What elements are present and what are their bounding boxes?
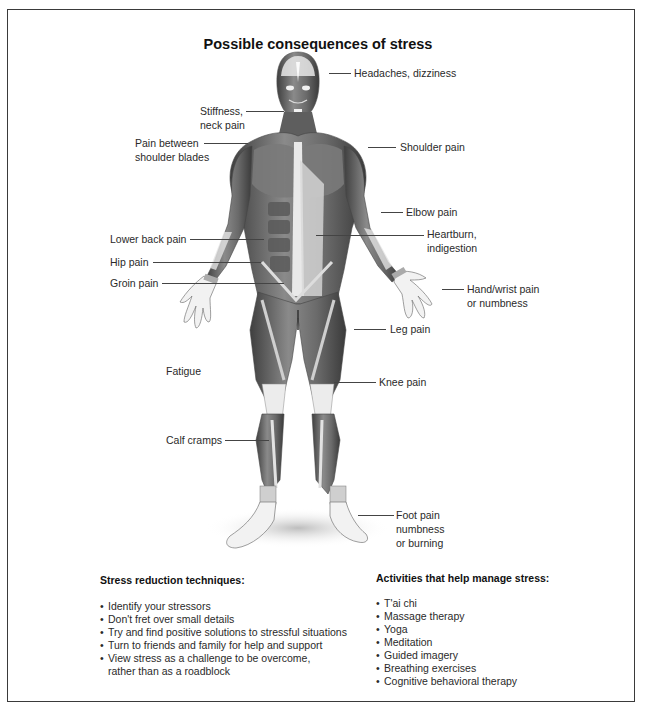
leader-groin bbox=[162, 283, 284, 284]
list-item-text: rather than as a roadblock bbox=[108, 665, 230, 677]
bullet-icon: • bbox=[376, 636, 380, 649]
label-knee: Knee pain bbox=[379, 375, 426, 389]
list-item-text: Meditation bbox=[384, 636, 432, 648]
list-item-text: Don't fret over small details bbox=[108, 613, 234, 625]
bullet-icon: • bbox=[100, 613, 104, 626]
bullet-icon: • bbox=[376, 610, 380, 623]
bullet-icon: • bbox=[376, 662, 380, 675]
bullet-icon: • bbox=[100, 626, 104, 639]
label-hand: Hand/wrist pain or numbness bbox=[467, 282, 539, 310]
list-item-text: Try and find positive solutions to stres… bbox=[108, 626, 347, 638]
leader-hand bbox=[442, 289, 464, 290]
list-item: •Meditation bbox=[376, 636, 517, 649]
list-item: •Try and find positive solutions to stre… bbox=[100, 626, 347, 639]
list-item: •Breathing exercises bbox=[376, 662, 517, 675]
label-shoulder-blades: Pain between shoulder blades bbox=[135, 136, 209, 164]
label-foot: Foot pain numbness or burning bbox=[396, 508, 444, 550]
label-foot-line1: Foot pain bbox=[396, 508, 444, 522]
label-fatigue: Fatigue bbox=[166, 364, 201, 378]
leader-hip bbox=[153, 262, 261, 263]
list-item: •Massage therapy bbox=[376, 610, 517, 623]
label-between-line2: shoulder blades bbox=[135, 150, 209, 164]
stress-reduction-list: •Identify your stressors •Don't fret ove… bbox=[100, 600, 347, 678]
label-foot-line3: or burning bbox=[396, 536, 444, 550]
bullet-icon: • bbox=[376, 649, 380, 662]
list-item-text: Turn to friends and family for help and … bbox=[108, 639, 322, 651]
list-item-text: Guided imagery bbox=[384, 649, 458, 661]
label-stiffness-line1: Stiffness, bbox=[200, 104, 245, 118]
leader-headaches bbox=[329, 73, 351, 74]
list-item-text: Yoga bbox=[384, 623, 408, 635]
bullet-icon: • bbox=[376, 623, 380, 636]
leader-stiffness bbox=[246, 111, 284, 112]
bullet-icon: • bbox=[376, 675, 380, 688]
bullet-icon: • bbox=[100, 639, 104, 652]
label-heartburn-line1: Heartburn, bbox=[427, 227, 477, 241]
activities-list: •T'ai chi •Massage therapy •Yoga •Medita… bbox=[376, 597, 517, 688]
bullet-icon: • bbox=[100, 652, 104, 665]
stress-reduction-heading: Stress reduction techniques: bbox=[100, 574, 245, 586]
label-hand-line2: or numbness bbox=[467, 296, 539, 310]
bullet-icon: • bbox=[100, 600, 104, 613]
label-calf: Calf cramps bbox=[166, 433, 222, 447]
label-elbow: Elbow pain bbox=[406, 205, 457, 219]
list-item: •T'ai chi bbox=[376, 597, 517, 610]
activities-heading: Activities that help manage stress: bbox=[376, 572, 549, 584]
list-item-text: Identify your stressors bbox=[108, 600, 211, 612]
label-groin: Groin pain bbox=[110, 276, 158, 290]
list-item: •Yoga bbox=[376, 623, 517, 636]
list-item-text: View stress as a challenge to be overcom… bbox=[108, 652, 310, 664]
list-item-text: Cognitive behavioral therapy bbox=[384, 675, 517, 687]
label-stiffness-line2: neck pain bbox=[200, 118, 245, 132]
list-item-continuation: rather than as a roadblock bbox=[100, 665, 347, 678]
leader-heartburn bbox=[316, 235, 424, 236]
leader-foot bbox=[358, 515, 394, 516]
list-item-text: Massage therapy bbox=[384, 610, 465, 622]
list-item: •Guided imagery bbox=[376, 649, 517, 662]
list-item: •Turn to friends and family for help and… bbox=[100, 639, 347, 652]
list-item-text: T'ai chi bbox=[384, 597, 417, 609]
label-headaches: Headaches, dizziness bbox=[354, 66, 456, 80]
label-shoulder: Shoulder pain bbox=[400, 140, 465, 154]
label-leg: Leg pain bbox=[390, 322, 430, 336]
label-hand-line1: Hand/wrist pain bbox=[467, 282, 539, 296]
leader-lower-back bbox=[190, 239, 264, 240]
label-lower-back: Lower back pain bbox=[110, 232, 186, 246]
leader-elbow bbox=[381, 212, 403, 213]
leader-knee bbox=[334, 382, 376, 383]
list-item-text: Breathing exercises bbox=[384, 662, 476, 674]
list-item: •View stress as a challenge to be overco… bbox=[100, 652, 347, 665]
leader-calf bbox=[225, 440, 269, 441]
bullet-icon: • bbox=[376, 597, 380, 610]
leader-leg bbox=[354, 329, 386, 330]
label-foot-line2: numbness bbox=[396, 522, 444, 536]
label-between-line1: Pain between bbox=[135, 136, 209, 150]
label-heartburn-line2: indigestion bbox=[427, 241, 477, 255]
list-item: •Identify your stressors bbox=[100, 600, 347, 613]
leader-shoulder bbox=[368, 147, 396, 148]
leader-between bbox=[204, 143, 248, 144]
list-item: •Don't fret over small details bbox=[100, 613, 347, 626]
label-heartburn: Heartburn, indigestion bbox=[427, 227, 477, 255]
label-hip: Hip pain bbox=[110, 255, 149, 269]
label-stiffness: Stiffness, neck pain bbox=[200, 104, 245, 132]
list-item: •Cognitive behavioral therapy bbox=[376, 675, 517, 688]
